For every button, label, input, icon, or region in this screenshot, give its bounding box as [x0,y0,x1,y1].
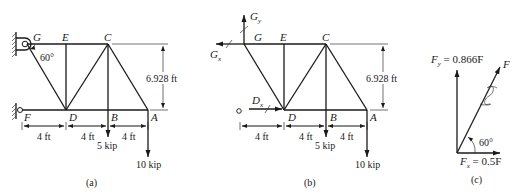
joint-g-label: G [33,31,41,43]
svg-text:4 ft: 4 ft [255,131,269,142]
load-b-label-b: 5 kip [315,140,335,151]
reaction-dx-label: Dx [251,94,264,109]
joint-d-label: D [68,111,77,123]
height-dimension-a: 6.928 ft [112,44,177,110]
angle-arc-c-icon [468,137,475,153]
angle-label-c: 60° [479,137,493,148]
height-dimension-b: 6.928 ft [330,44,397,110]
joint-c-label-b: C [322,31,330,43]
joint-e-label-b: E [279,31,287,43]
joint-f-label: F [23,111,31,123]
caption-c: (c) [471,174,482,186]
figure-c: 60° F Fy = 0.866F Fx = 0.5F (c) [430,53,510,186]
span-dimensions-b: 4 ft 4 ft 4 ft [240,122,367,142]
svg-text:6.928 ft: 6.928 ft [366,73,397,84]
joint-g-label-b: G [254,31,262,43]
roller-support-f-icon [12,103,23,120]
svg-text:4 ft: 4 ft [81,131,95,142]
load-a-label-b: 10 kip [355,159,380,170]
joint-b-label-b: B [330,111,337,123]
svg-text:4 ft: 4 ft [340,131,354,142]
joint-a-label-b: A [369,111,377,123]
joint-c-label: C [104,31,112,43]
figure-a: 60° G E C F D B A 6.928 ft [12,31,177,189]
svg-text:6.928 ft: 6.928 ft [146,73,177,84]
reaction-gx-label: Gx [210,48,222,63]
caption-a: (a) [86,177,97,189]
load-a-label: 10 kip [136,159,161,170]
joint-b-label: B [111,111,118,123]
svg-text:4 ft: 4 ft [299,131,313,142]
svg-text:4 ft: 4 ft [122,131,136,142]
caption-b: (b) [304,177,316,189]
angle-label: 60° [40,52,54,63]
removed-support-icon [237,109,242,114]
force-f-label: F [502,58,510,70]
reaction-gy-label: Gy [250,10,262,25]
load-b-label: 5 kip [97,140,117,151]
figure-b: Gy Gx Dx G E C D B A 6.928 ft [210,10,397,189]
span-dimensions-a: 4 ft 4 ft 4 ft [22,122,148,142]
fx-label: Fx = 0.5F [459,155,501,170]
svg-text:4 ft: 4 ft [37,131,51,142]
truss-figure: 60° G E C F D B A 6.928 ft [0,0,512,196]
fy-label: Fy = 0.866F [430,53,483,68]
joint-d-label-b: D [287,111,296,123]
joint-a-label: A [150,111,158,123]
joint-e-label: E [61,31,69,43]
